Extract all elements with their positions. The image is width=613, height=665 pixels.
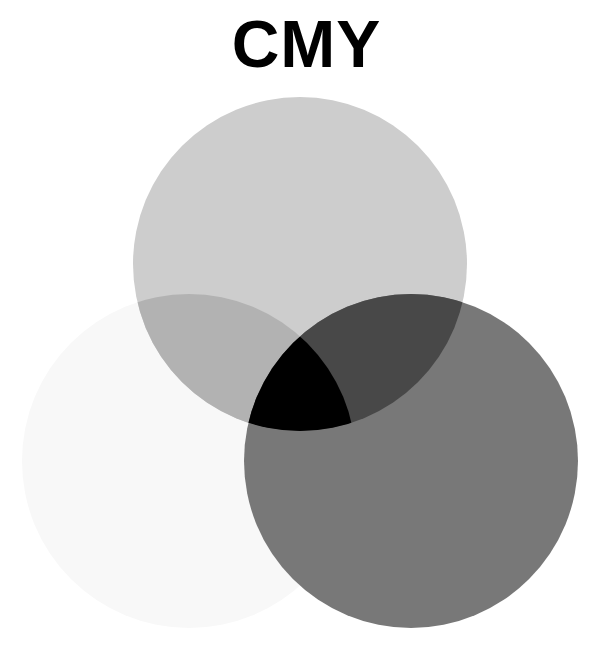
cmy-venn-diagram <box>0 0 613 665</box>
